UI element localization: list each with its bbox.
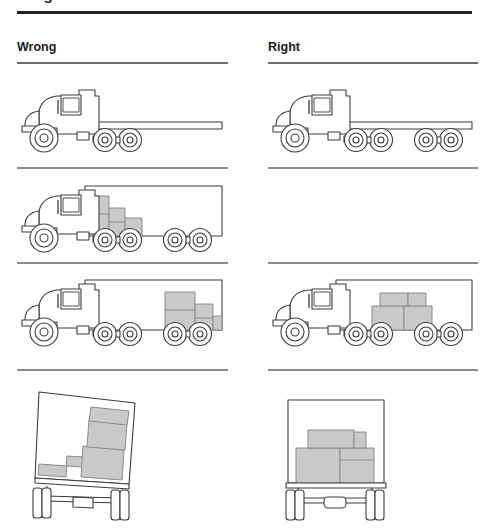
figure-title: Weight Distribution [17, 0, 472, 3]
row-3-wrong-illustration [17, 272, 228, 356]
figure-title-clipped: Weight Distribution [17, 0, 472, 3]
column-header-wrong: Wrong [17, 40, 56, 54]
weight-distribution-figure: Weight Distribution Wrong Right [0, 0, 490, 530]
row-1-divider-right [268, 167, 478, 169]
row-2-divider-right [268, 262, 478, 264]
title-rule [17, 11, 472, 14]
row-2-wrong-illustration [17, 178, 228, 260]
row-4-wrong-illustration [17, 380, 228, 528]
row-3-divider-right [268, 369, 478, 371]
row-4-right-illustration [268, 380, 478, 528]
header-rule-left [17, 62, 228, 64]
row-3-right-illustration [268, 272, 478, 356]
row-2-divider-left [17, 262, 228, 264]
row-1-wrong-illustration [17, 82, 228, 158]
header-rule-right [268, 62, 478, 64]
row-1-right-illustration [268, 82, 478, 158]
column-header-right: Right [268, 40, 300, 54]
row-1-divider-left [17, 167, 228, 169]
row-3-divider-left [17, 369, 228, 371]
